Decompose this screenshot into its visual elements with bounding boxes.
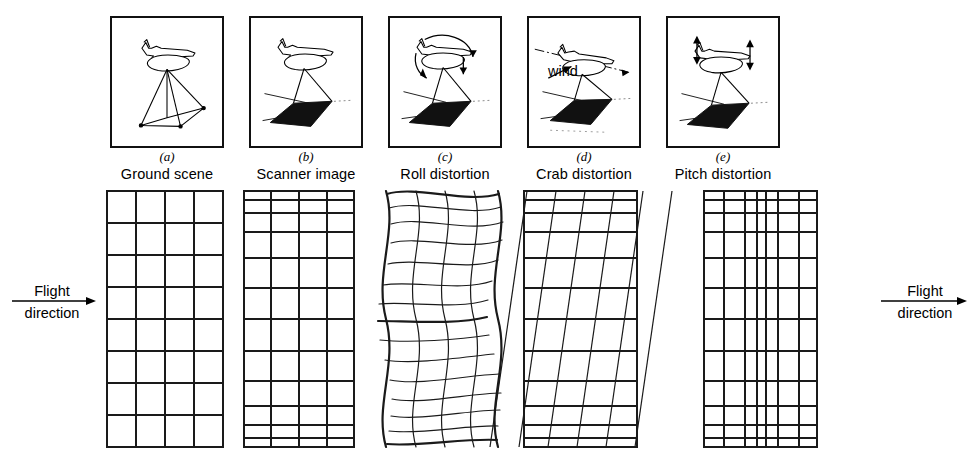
grid-pitch-distortion	[700, 188, 824, 450]
illustration-panel-roll-distortion	[388, 16, 502, 148]
panel-caption-ground-scene: Ground scene	[87, 166, 247, 182]
arrow-right-icon-left	[0, 300, 104, 302]
aircraft-crab-icon	[529, 18, 639, 146]
flight-direction-left-line2: direction	[0, 305, 104, 322]
grid-ground-scene-svg	[103, 188, 227, 450]
grid-roll-distortion-svg	[376, 188, 508, 450]
grid-scanner-image-svg	[240, 188, 358, 450]
illustration-panel-crab-distortion	[527, 16, 641, 148]
panel-caption-pitch-distortion: Pitch distortion	[643, 166, 803, 182]
wind-label: wind	[548, 63, 578, 79]
aircraft-roll-icon	[390, 18, 500, 146]
aircraft-pitch-icon	[668, 18, 778, 146]
grid-crab-distortion-svg	[520, 188, 644, 450]
aircraft-ground-swath-icon	[251, 18, 361, 146]
flight-direction-left: Flight direction	[0, 283, 104, 322]
panel-caption-crab-distortion: Crab distortion	[504, 166, 664, 182]
flight-direction-right: Flight direction	[873, 283, 977, 322]
scanner-distortion-figure: wind (a) (b) (c) (d) (e) Ground scene Sc…	[0, 0, 977, 459]
panel-caption-roll-distortion: Roll distortion	[365, 166, 525, 182]
aircraft-scan-pyramid-icon	[112, 18, 222, 146]
illustration-panel-row	[0, 16, 977, 148]
panel-letter-b: (b)	[236, 150, 376, 164]
grid-crab-distortion	[520, 188, 644, 450]
illustration-panel-pitch-distortion	[666, 16, 780, 148]
illustration-panel-ground-scene	[110, 16, 224, 148]
panel-letter-d: (d)	[514, 150, 654, 164]
panel-letter-c: (c)	[375, 150, 515, 164]
grid-ground-scene	[103, 188, 227, 450]
panel-letter-e: (e)	[653, 150, 793, 164]
arrow-right-icon-right	[873, 300, 977, 302]
illustration-panel-scanner-image	[249, 16, 363, 148]
grid-pitch-distortion-svg	[700, 188, 824, 450]
grid-roll-distortion	[376, 188, 508, 450]
panel-letter-a: (a)	[97, 150, 237, 164]
grid-scanner-image	[240, 188, 358, 450]
panel-caption-scanner-image: Scanner image	[226, 166, 386, 182]
flight-direction-right-line2: direction	[873, 305, 977, 322]
